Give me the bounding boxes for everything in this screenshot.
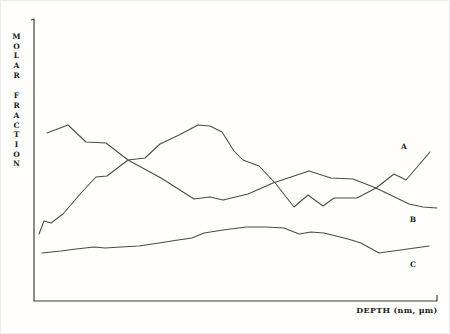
series-label-C: C — [410, 260, 416, 269]
curve-C — [42, 227, 429, 253]
axes-line — [31, 19, 437, 301]
curve-A — [39, 125, 430, 234]
curve-B — [47, 125, 437, 208]
series-label-A: A — [400, 142, 407, 151]
series-label-B: B — [410, 215, 416, 224]
chart-svg: ABC — [1, 1, 450, 334]
figure-page: MOLARFRACTION ABC DEPTH (nm, μm) — [0, 0, 450, 334]
x-axis-label: DEPTH (nm, μm) — [349, 305, 445, 315]
